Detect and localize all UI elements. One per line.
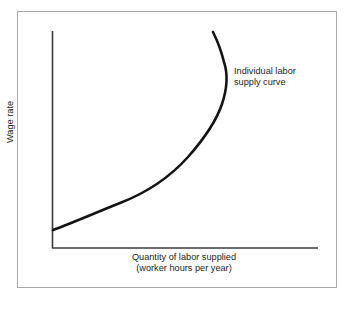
x-axis-label: Quantity of labor supplied (worker hours…: [64, 252, 304, 275]
y-axis-label: Wage rate: [3, 129, 73, 143]
curve-annotation-line1: Individual labor: [234, 66, 296, 77]
figure-container: Wage rate Quantity of labor supplied (wo…: [0, 0, 357, 312]
curve-annotation: Individual labor supply curve: [234, 66, 296, 89]
x-axis-label-line1: Quantity of labor supplied: [64, 252, 304, 263]
x-axis-label-line2: (worker hours per year): [64, 263, 304, 274]
curve-annotation-line2: supply curve: [234, 77, 296, 88]
individual-labor-supply-curve: [53, 32, 226, 230]
